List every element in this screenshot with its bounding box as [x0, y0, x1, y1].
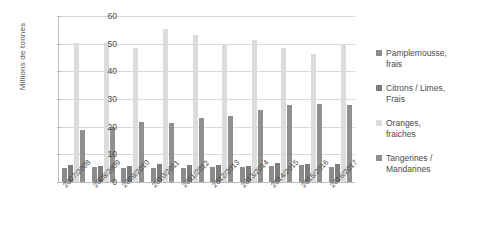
chart-legend: Pamplemousse,fraisCitrons / Limes,FraisO…: [376, 48, 476, 188]
bar: [163, 29, 168, 182]
legend-swatch-icon: [376, 85, 382, 91]
legend-item-label: Citrons / Limes,Frais: [386, 83, 445, 105]
y-axis-tick-label: 30: [87, 94, 117, 104]
legend-swatch-icon: [376, 50, 382, 56]
bar: [133, 48, 138, 182]
bar: [222, 45, 227, 182]
bar: [74, 43, 79, 182]
y-axis-tick-label: 60: [87, 11, 117, 21]
legend-label-line: Tangerines /: [386, 153, 432, 164]
legend-label-line: frais: [386, 59, 447, 70]
legend-item[interactable]: Oranges,fraiches: [376, 118, 476, 140]
bar-group: [59, 16, 89, 182]
legend-item-label: Oranges,fraiches: [386, 118, 421, 140]
bar: [341, 45, 346, 182]
legend-item[interactable]: Pamplemousse,frais: [376, 48, 476, 70]
y-axis-title: Millions de tonnes: [18, 0, 27, 117]
y-axis-tick-label: 40: [87, 66, 117, 76]
bar: [311, 54, 316, 182]
legend-label-line: Mandarines: [386, 164, 432, 175]
bar: [281, 48, 286, 182]
legend-label-line: fraiches: [386, 129, 421, 140]
legend-swatch-icon: [376, 155, 382, 161]
legend-item-label: Pamplemousse,frais: [386, 48, 447, 70]
bar: [104, 43, 109, 182]
y-axis-tick-label: 50: [87, 39, 117, 49]
legend-swatch-icon: [376, 120, 382, 126]
legend-label-line: Pamplemousse,: [386, 48, 447, 59]
y-axis-tick-label: 20: [87, 122, 117, 132]
legend-label-line: Oranges,: [386, 118, 421, 129]
legend-item-label: Tangerines /Mandarines: [386, 153, 432, 175]
legend-item[interactable]: Citrons / Limes,Frais: [376, 83, 476, 105]
bar: [193, 35, 198, 182]
bar: [252, 40, 257, 182]
legend-label-line: Citrons / Limes,: [386, 83, 445, 94]
legend-label-line: Frais: [386, 94, 445, 105]
bar-chart: Millions de tonnes 6050403020100 2007/20…: [0, 0, 478, 238]
legend-item[interactable]: Tangerines /Mandarines: [376, 153, 476, 175]
x-axis-labels: 2007/20082008/20092009/20102010/20112011…: [58, 183, 355, 238]
